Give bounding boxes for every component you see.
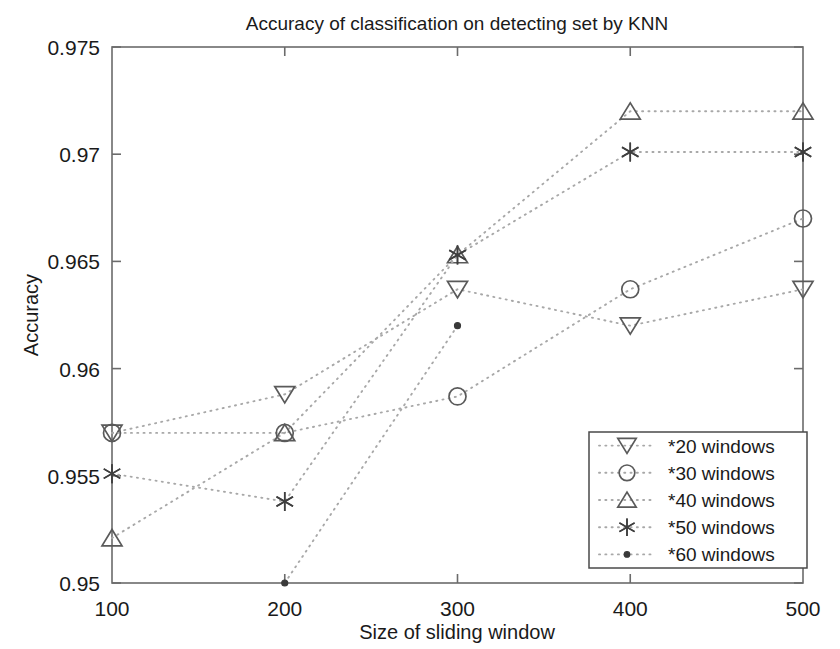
legend-label: *20 windows bbox=[668, 436, 775, 457]
chart-title: Accuracy of classification on detecting … bbox=[246, 13, 668, 34]
chart-figure: Accuracy of classification on detecting … bbox=[0, 0, 840, 649]
legend-label: *50 windows bbox=[668, 517, 775, 538]
chart-legend[interactable]: *20 windows*30 windows*40 windows*50 win… bbox=[589, 432, 807, 568]
y-tick-label: 0.97 bbox=[59, 143, 100, 166]
x-tick-label: 200 bbox=[267, 597, 302, 620]
marker-dot bbox=[282, 580, 288, 586]
y-tick-label: 0.975 bbox=[47, 36, 100, 59]
chart-svg: Accuracy of classification on detecting … bbox=[0, 0, 840, 649]
x-tick-label: 400 bbox=[613, 597, 648, 620]
x-tick-label: 100 bbox=[94, 597, 129, 620]
y-tick-label: 0.96 bbox=[59, 358, 100, 381]
x-axis-label: Size of sliding window bbox=[359, 621, 555, 643]
marker-dot bbox=[455, 323, 461, 329]
x-tick-label: 500 bbox=[785, 597, 820, 620]
y-tick-label: 0.95 bbox=[59, 572, 100, 595]
marker-dot bbox=[624, 552, 630, 558]
legend-entry[interactable]: *30 windows bbox=[599, 463, 775, 484]
y-tick-label: 0.955 bbox=[47, 465, 100, 488]
legend-label: *60 windows bbox=[668, 544, 775, 565]
legend-label: *30 windows bbox=[668, 463, 775, 484]
y-tick-label: 0.965 bbox=[47, 250, 100, 273]
legend-label: *40 windows bbox=[668, 490, 775, 511]
y-axis-label: Accuracy bbox=[20, 274, 42, 356]
x-tick-label: 300 bbox=[440, 597, 475, 620]
